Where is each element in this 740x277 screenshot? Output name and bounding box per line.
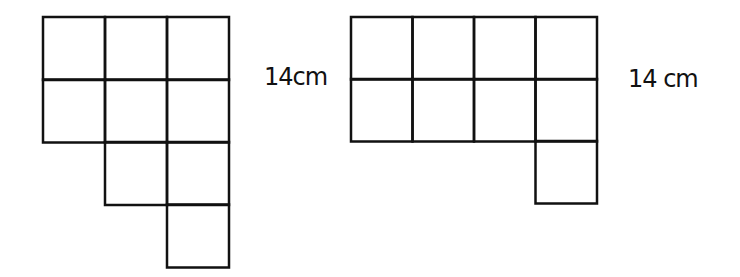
diagram-canvas: 14cm 14 cm xyxy=(0,0,740,277)
right-figure xyxy=(351,17,597,204)
square-figures xyxy=(0,0,740,277)
unit-square xyxy=(536,79,598,142)
unit-square xyxy=(167,205,229,268)
unit-square xyxy=(167,80,229,143)
unit-square xyxy=(167,17,229,80)
unit-square xyxy=(474,17,536,80)
unit-square xyxy=(43,80,105,143)
unit-square xyxy=(43,17,105,80)
left-figure-perimeter-label: 14cm xyxy=(264,63,327,91)
left-figure xyxy=(43,17,229,268)
unit-square xyxy=(413,79,475,142)
unit-square xyxy=(351,17,413,80)
right-figure-perimeter-label: 14 cm xyxy=(628,65,698,93)
unit-square xyxy=(167,142,229,205)
unit-square xyxy=(536,17,598,80)
unit-square xyxy=(105,142,167,205)
unit-square xyxy=(351,79,413,142)
unit-square xyxy=(413,17,475,80)
unit-square xyxy=(474,79,536,142)
unit-square xyxy=(105,17,167,80)
unit-square xyxy=(536,141,598,204)
unit-square xyxy=(105,80,167,143)
